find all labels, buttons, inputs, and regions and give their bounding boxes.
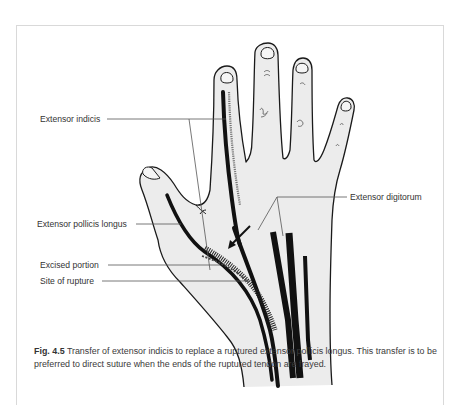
caption-figure-number: Fig. 4.5 (34, 346, 65, 356)
nail-index (221, 73, 233, 84)
label-site-of-rupture: Site of rupture (40, 276, 94, 286)
figure-caption: Fig. 4.5 Transfer of extensor indicis to… (34, 345, 439, 371)
nail-middle (261, 48, 274, 59)
nail-ring (296, 63, 308, 73)
label-extensor-digitorum: Extensor digitorum (350, 192, 422, 202)
nail-little (341, 101, 351, 111)
caption-text: Transfer of extensor indicis to replace … (34, 346, 437, 369)
label-extensor-indicis: Extensor indicis (40, 114, 100, 124)
hand-outline (140, 43, 354, 387)
label-excised-portion: Excised portion (40, 260, 99, 270)
label-extensor-pollicis-longus: Extensor pollicis longus (37, 219, 127, 229)
